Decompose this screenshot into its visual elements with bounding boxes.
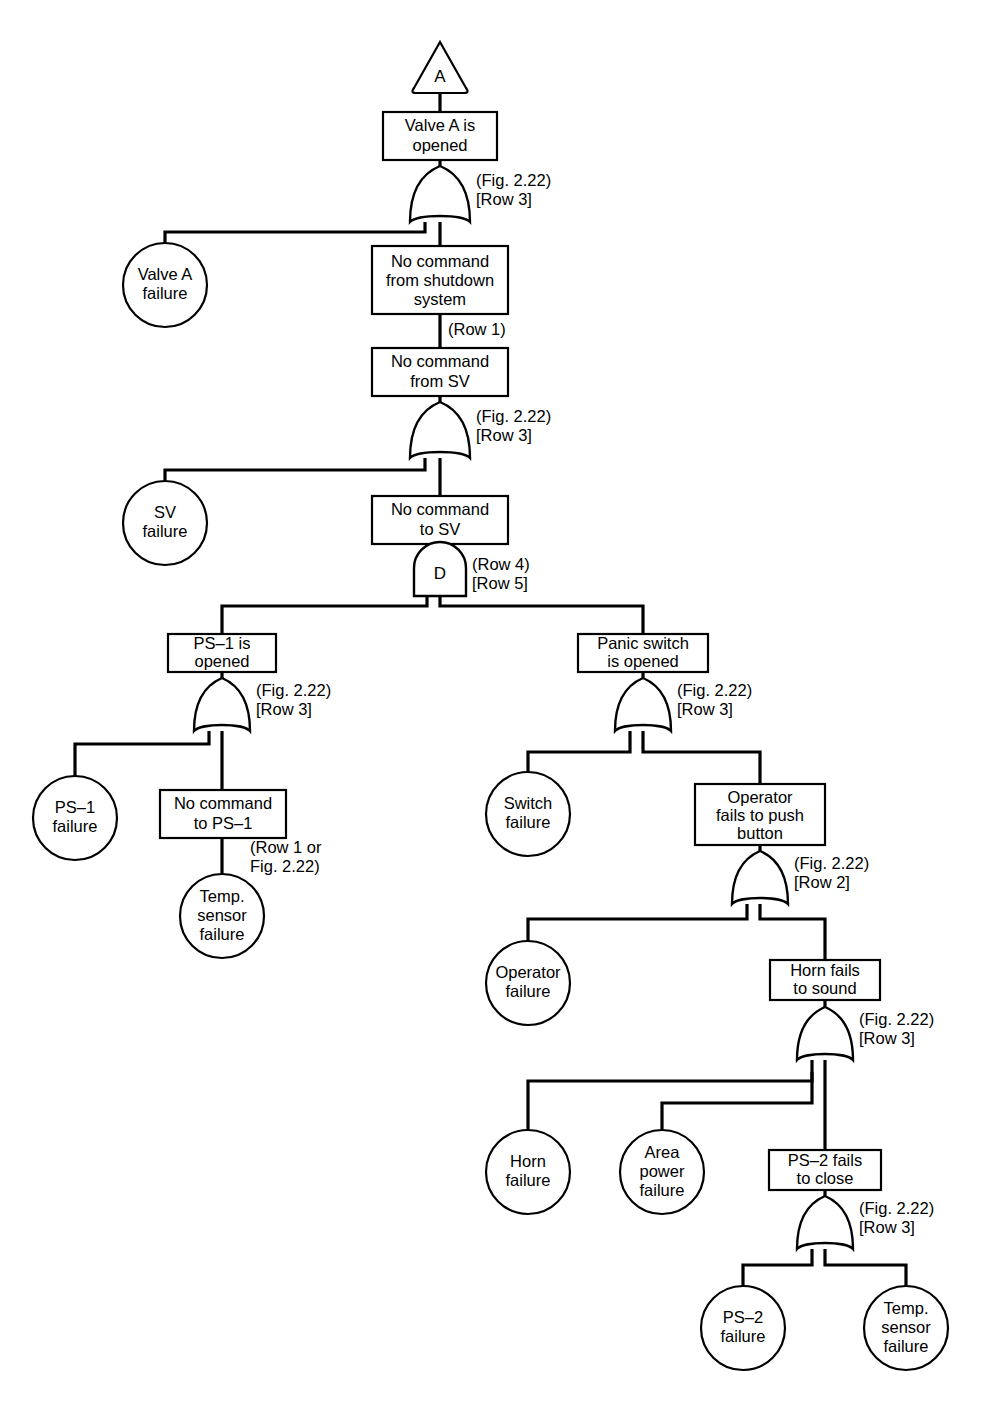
gate-ps-2[interactable]: (Fig. 2.22) [Row 3]: [797, 1196, 934, 1249]
event-line-2: failure: [721, 1327, 766, 1345]
event-ps-2-failure[interactable]: PS–2 failure: [701, 1286, 785, 1370]
event-line-1: PS–1 is: [194, 634, 251, 652]
or-gate-icon: [615, 678, 671, 731]
event-ps-2-fails-to-close[interactable]: PS–2 fails to close: [769, 1150, 881, 1190]
transfer-a-label: A: [434, 67, 446, 86]
event-line-1: No command: [174, 794, 272, 812]
event-line-2: failure: [53, 817, 98, 835]
edge-gate-panic-bus-left: [528, 731, 630, 772]
gate-panic-switch[interactable]: (Fig. 2.22) [Row 3]: [615, 678, 752, 731]
event-line-2: failure: [143, 284, 188, 302]
gate-ps-1[interactable]: (Fig. 2.22) [Row 3]: [194, 678, 331, 731]
event-temp-sensor-failure-2[interactable]: Temp. sensor failure: [864, 1286, 948, 1370]
event-area-power-failure[interactable]: Area power failure: [620, 1130, 704, 1214]
gate-note-line-1: (Fig. 2.22): [476, 407, 551, 425]
event-line-1: Operator: [495, 963, 561, 981]
event-no-command-from-shutdown-system[interactable]: No command from shutdown system: [372, 246, 508, 314]
event-line-1: Horn fails: [790, 961, 860, 979]
event-no-command-from-sv[interactable]: No command from SV: [372, 348, 508, 396]
gate-note-line-2: [Row 3]: [256, 700, 312, 718]
gate-note-line-1: (Fig. 2.22): [476, 171, 551, 189]
edge-gate-ps2-bus-right: [825, 1249, 906, 1286]
event-panic-switch-is-opened[interactable]: Panic switch is opened: [578, 634, 708, 672]
event-sv-failure[interactable]: SV failure: [123, 481, 207, 565]
event-valve-a-failure[interactable]: Valve A failure: [123, 243, 207, 327]
event-line-1: No command: [391, 352, 489, 370]
edge-gate-sv-bus: [165, 458, 425, 481]
gate-note-line-1: (Fig. 2.22): [256, 681, 331, 699]
gate-no-command-to-sv[interactable]: D (Row 4) [Row 5]: [414, 542, 530, 596]
event-line-1: Temp.: [884, 1299, 929, 1317]
note-line-1: (Row 1 or: [250, 838, 322, 856]
event-line-1: No command: [391, 252, 489, 270]
gate-note-line-1: (Fig. 2.22): [794, 854, 869, 872]
gate-note-line-2: [Row 5]: [472, 574, 528, 592]
gate-valve-a[interactable]: (Fig. 2.22) [Row 3]: [410, 166, 551, 222]
event-line-1: Valve A: [138, 265, 193, 283]
or-gate-icon: [797, 1196, 853, 1249]
gate-horn[interactable]: (Fig. 2.22) [Row 3]: [797, 1007, 934, 1060]
event-line-2: failure: [506, 813, 551, 831]
event-line-2: failure: [506, 982, 551, 1000]
event-line-2: to SV: [420, 520, 460, 538]
gate-symbol: D: [434, 564, 446, 583]
event-temp-sensor-failure-1[interactable]: Temp. sensor failure: [180, 874, 264, 958]
edge-gate-d-bus-right: [440, 596, 643, 634]
event-operator-failure[interactable]: Operator failure: [486, 941, 570, 1025]
event-ps-1-failure[interactable]: PS–1 failure: [33, 776, 117, 860]
event-line-2: sensor: [197, 906, 247, 924]
event-operator-fails-to-push-button[interactable]: Operator fails to push button: [695, 784, 825, 845]
event-line-2: from SV: [410, 372, 470, 390]
event-line-2: opened: [194, 652, 249, 670]
event-line-1: Valve A is: [405, 116, 475, 134]
or-gate-icon: [194, 678, 250, 731]
event-horn-fails-to-sound[interactable]: Horn fails to sound: [770, 960, 880, 1000]
event-line-3: failure: [200, 925, 245, 943]
edge-gate-panic-bus-right: [643, 731, 760, 784]
gate-note-line-2: [Row 2]: [794, 873, 850, 891]
event-line-1: Temp.: [200, 887, 245, 905]
event-line-2: from shutdown: [386, 271, 494, 289]
gate-note-line-2: [Row 3]: [859, 1218, 915, 1236]
or-gate-icon: [410, 166, 470, 222]
gate-note-line-2: [Row 3]: [677, 700, 733, 718]
note-line-2: Fig. 2.22): [250, 857, 320, 875]
event-no-command-to-sv[interactable]: No command to SV: [372, 496, 508, 544]
or-gate-icon: [732, 851, 788, 904]
event-no-command-to-ps-1[interactable]: No command to PS–1: [160, 790, 286, 838]
fault-tree-svg: A Valve A is opened (Fig. 2.22) [Row 3] …: [0, 0, 984, 1402]
event-valve-a-is-opened[interactable]: Valve A is opened: [383, 112, 497, 160]
event-line-3: failure: [640, 1181, 685, 1199]
edge-gate-operator-bus-left: [528, 904, 747, 941]
gate-no-command-from-sv[interactable]: (Fig. 2.22) [Row 3]: [410, 402, 551, 458]
event-line-1: Operator: [727, 788, 793, 806]
transfer-a-symbol[interactable]: A: [412, 42, 467, 93]
gate-note-line-1: (Row 4): [472, 555, 530, 573]
event-ps-1-is-opened[interactable]: PS–1 is opened: [168, 634, 276, 672]
gate-note-line-2: [Row 3]: [476, 190, 532, 208]
gate-note-line-2: [Row 3]: [476, 426, 532, 444]
event-line-2: is opened: [607, 652, 679, 670]
edge-gate-ps1-bus-left: [75, 731, 209, 776]
event-line-2: to close: [797, 1169, 854, 1187]
event-line-1: No command: [391, 500, 489, 518]
gate-note-line-1: (Fig. 2.22): [859, 1010, 934, 1028]
event-line-1: SV: [154, 503, 176, 521]
event-line-2: power: [640, 1162, 685, 1180]
event-line-2: to PS–1: [194, 814, 253, 832]
or-gate-icon: [410, 402, 470, 458]
event-line-3: failure: [884, 1337, 929, 1355]
note-row1-or-fig222: (Row 1 or Fig. 2.22): [250, 838, 322, 875]
note-row-1: (Row 1): [448, 320, 506, 338]
event-line-3: button: [737, 824, 783, 842]
event-switch-failure[interactable]: Switch failure: [486, 772, 570, 856]
fault-tree-page: A Valve A is opened (Fig. 2.22) [Row 3] …: [0, 0, 984, 1402]
event-line-1: Horn: [510, 1152, 546, 1170]
gate-note-line-1: (Fig. 2.22): [677, 681, 752, 699]
event-line-2: opened: [412, 136, 467, 154]
gate-note-line-1: (Fig. 2.22): [859, 1199, 934, 1217]
gate-operator[interactable]: (Fig. 2.22) [Row 2]: [732, 851, 869, 904]
event-horn-failure[interactable]: Horn failure: [486, 1130, 570, 1214]
event-line-2: fails to push: [716, 806, 804, 824]
edge-gate-ps2-bus-left: [743, 1249, 812, 1286]
